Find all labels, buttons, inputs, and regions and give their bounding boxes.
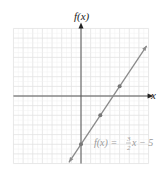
data-point	[118, 84, 122, 88]
y-axis-label: f(x)	[74, 10, 90, 23]
equation-numerator: 3	[126, 135, 131, 143]
y-axis-arrow-icon	[79, 22, 84, 28]
function-graph: f(x) x f(x) = 3 2 x − 5	[0, 0, 162, 181]
equation-annotation: f(x) = 3 2 x − 5	[94, 135, 153, 152]
line-arrow-end-icon	[142, 46, 146, 51]
x-axis-label: x	[150, 89, 156, 101]
data-point	[79, 142, 83, 146]
equation-lhs: f(x) =	[94, 137, 117, 149]
equation-denominator: 2	[127, 144, 131, 152]
data-point	[98, 113, 102, 117]
equation-rhs: x − 5	[131, 137, 153, 148]
